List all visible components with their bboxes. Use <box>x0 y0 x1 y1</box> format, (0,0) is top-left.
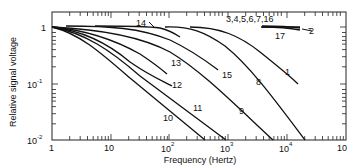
label-curve-8: 8 <box>256 77 261 87</box>
curve-11 <box>52 27 226 140</box>
curve-9 <box>52 27 273 140</box>
x-tick-1: 1 <box>49 143 54 153</box>
label-curve-15: 15 <box>222 70 232 80</box>
x-axis-ticks <box>70 12 344 140</box>
y-tick-0.1-exp: -1 <box>37 78 43 84</box>
curve-15 <box>66 26 218 70</box>
x-tick-10: 10 <box>104 143 114 153</box>
curve-12 <box>52 27 172 86</box>
label-curve-11: 11 <box>193 103 202 113</box>
curve-10 <box>52 27 205 140</box>
x-tick-100000: 10 <box>337 143 347 153</box>
label-curve-1: 1 <box>285 67 290 77</box>
label-curve-3-16: 3,4,5,6,7,16 <box>226 14 274 24</box>
label-curve-12: 12 <box>172 80 182 90</box>
x-tick-100-exp: 2 <box>171 141 175 147</box>
label-curve-10: 10 <box>163 113 173 123</box>
y-tick-0.1: 10 <box>27 80 37 90</box>
y-tick-1: 1 <box>41 23 46 33</box>
label-curve-14: 14 <box>136 18 146 28</box>
x-tick-10000: 10 <box>279 144 289 154</box>
label-curve-13: 13 <box>171 58 181 68</box>
y-axis-label: Relative signal voltage <box>8 37 18 127</box>
x-axis-label: Frequency (Hertz) <box>164 155 237 165</box>
x-tick-1000-exp: 3 <box>230 141 234 147</box>
minus-2: - <box>308 23 311 33</box>
x-tick-10000-exp: 4 <box>289 141 293 147</box>
x-tick-100: 10 <box>161 144 171 154</box>
y-tick-0.01-exp: -2 <box>37 134 43 140</box>
y-tick-0.01: 10 <box>27 136 37 146</box>
frequency-response-chart: 1 2 - 3,4,5,6,7,16 8 9 10 11 12 13 14 15… <box>0 0 349 167</box>
curve-8 <box>165 27 305 140</box>
label-curve-17: 17 <box>275 31 285 41</box>
label-curve-9: 9 <box>239 106 244 116</box>
x-tick-1000: 10 <box>220 144 230 154</box>
